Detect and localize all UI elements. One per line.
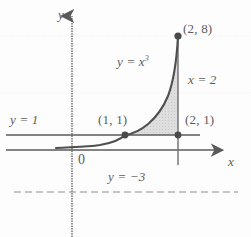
upper-horizontal-line-label: y = 1 — [10, 113, 39, 126]
point-2-8 — [174, 32, 181, 39]
origin-label: 0 — [78, 153, 85, 167]
point-label-2-1: (2, 1) — [185, 113, 214, 126]
point-2-1 — [175, 132, 182, 139]
graph-figure: y x 0 y = x3 x = 2 y = 1 y = −3 (2, 8) (… — [0, 0, 251, 237]
x-axis-label: x — [228, 155, 234, 168]
y-axis-label: y — [58, 8, 64, 21]
point-1-1 — [122, 132, 129, 139]
curve-equation-exponent: 3 — [145, 54, 149, 63]
vertical-line-label: x = 2 — [188, 73, 217, 86]
point-label-1-1: (1, 1) — [98, 113, 127, 126]
curve-equation-base: y = x — [117, 54, 145, 69]
point-label-2-8: (2, 8) — [183, 22, 212, 35]
curve-equation-label: y = x3 — [117, 55, 149, 68]
lower-horizontal-line-label: y = −3 — [108, 170, 146, 183]
